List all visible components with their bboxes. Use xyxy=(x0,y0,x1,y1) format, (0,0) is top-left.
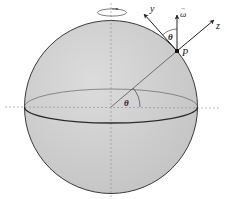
theta-center-label: θ xyxy=(124,98,129,108)
theta-top-label: θ xyxy=(168,32,173,42)
point-P xyxy=(175,49,179,53)
z-axis-label: z xyxy=(215,20,220,31)
point-label: P xyxy=(181,47,188,58)
y-axis-label: y xyxy=(149,3,155,14)
rotation-arrow xyxy=(98,9,127,16)
omega-vector-mark: → xyxy=(180,5,186,11)
sphere-diagram: y ω → z θ P θ xyxy=(0,0,227,199)
